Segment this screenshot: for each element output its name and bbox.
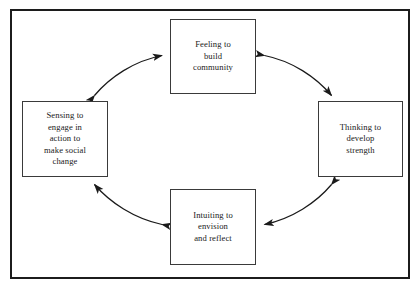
node-thinking[interactable]: Thinking to develop strength xyxy=(318,101,403,177)
diagram-canvas: Feeling to build community Thinking to d… xyxy=(0,0,420,291)
node-thinking-label: Thinking to develop strength xyxy=(336,122,385,156)
node-feeling[interactable]: Feeling to build community xyxy=(170,19,256,94)
node-feeling-label: Feeling to build community xyxy=(189,39,237,73)
connector-feeling-thinking xyxy=(265,56,332,96)
connector-intuiting-sensing xyxy=(95,185,163,225)
node-sensing-label: Sensing to engage in action to make soci… xyxy=(40,110,90,167)
node-intuiting-label: Intuiting to envision and reflect xyxy=(189,210,237,244)
connector-thinking-intuiting xyxy=(265,185,332,225)
connector-sensing-feeling xyxy=(95,56,163,96)
node-sensing[interactable]: Sensing to engage in action to make soci… xyxy=(22,101,108,177)
node-intuiting[interactable]: Intuiting to envision and reflect xyxy=(170,189,256,265)
